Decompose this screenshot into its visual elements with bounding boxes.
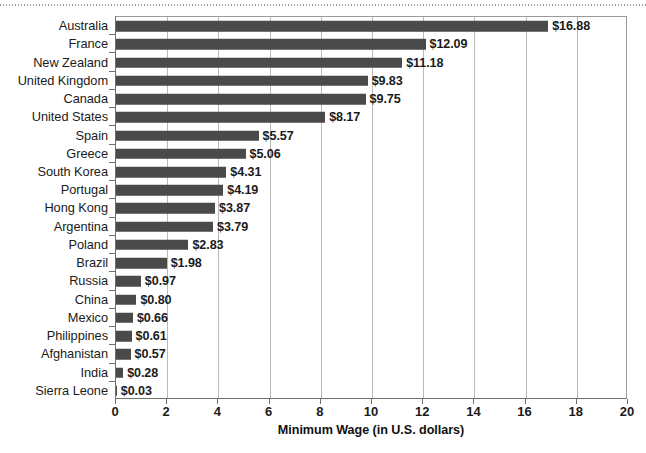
bar[interactable] <box>116 313 133 324</box>
bar[interactable] <box>116 149 246 160</box>
category-label: Spain <box>76 127 108 142</box>
category-label: Portugal <box>61 182 108 197</box>
x-axis-tick-label: 10 <box>364 404 378 419</box>
bar-value-label: $5.06 <box>250 147 281 161</box>
x-axis-tick-label: 2 <box>163 404 170 419</box>
category-axis-row: Spain <box>0 125 108 143</box>
x-axis-tick-label: 4 <box>214 404 221 419</box>
category-axis-row: Brazil <box>0 253 108 271</box>
category-tick <box>109 107 115 108</box>
bar-value-label: $0.97 <box>145 274 176 288</box>
bar[interactable] <box>116 203 215 214</box>
bar[interactable] <box>116 294 136 305</box>
bar-row[interactable]: $4.19 <box>116 181 626 199</box>
category-axis-row: Canada <box>0 89 108 107</box>
bar-value-label: $9.75 <box>370 92 401 106</box>
category-tick <box>109 180 115 181</box>
x-axis-tick-label: 20 <box>620 404 634 419</box>
category-label: Mexico <box>68 309 108 324</box>
category-tick <box>109 89 115 90</box>
bar-row[interactable]: $3.79 <box>116 218 626 236</box>
bar-row[interactable]: $11.18 <box>116 53 626 71</box>
x-axis-tick-label: 8 <box>316 404 323 419</box>
minimum-wage-bar-chart: AustraliaFranceNew ZealandUnited Kingdom… <box>0 0 646 453</box>
bar-row[interactable]: $4.31 <box>116 163 626 181</box>
bar-row[interactable]: $16.88 <box>116 17 626 35</box>
category-label: India <box>81 364 109 379</box>
bar-value-label: $0.28 <box>127 366 158 380</box>
category-label: Sierra Leone <box>35 382 108 397</box>
category-tick <box>109 198 115 199</box>
bar-value-label: $2.83 <box>192 238 223 252</box>
category-tick <box>109 162 115 163</box>
bar[interactable] <box>116 130 259 141</box>
bar-row[interactable]: $0.28 <box>116 364 626 382</box>
category-tick <box>109 290 115 291</box>
category-label: United Kingdom <box>18 72 108 87</box>
category-axis-row: Greece <box>0 144 108 162</box>
category-label: New Zealand <box>33 54 108 69</box>
bar-row[interactable]: $2.83 <box>116 236 626 254</box>
bar-row[interactable]: $0.97 <box>116 272 626 290</box>
bar-row[interactable]: $0.57 <box>116 345 626 363</box>
bar-value-label: $5.57 <box>263 129 294 143</box>
bar[interactable] <box>116 276 141 287</box>
bar[interactable] <box>116 94 366 105</box>
category-label: China <box>75 291 108 306</box>
bar-row[interactable]: $0.66 <box>116 309 626 327</box>
bar[interactable] <box>116 167 226 178</box>
category-tick <box>109 144 115 145</box>
category-label: Argentina <box>54 218 108 233</box>
category-label: Greece <box>66 145 108 160</box>
bar-row[interactable]: $12.09 <box>116 35 626 53</box>
bar-value-label: $0.80 <box>140 293 171 307</box>
bar[interactable] <box>116 240 188 251</box>
x-axis-tick-label: 18 <box>569 404 583 419</box>
category-tick <box>109 217 115 218</box>
category-label: Hong Kong <box>44 200 108 215</box>
category-tick <box>109 308 115 309</box>
bar[interactable] <box>116 39 426 50</box>
bar-row[interactable]: $5.06 <box>116 145 626 163</box>
category-tick <box>109 344 115 345</box>
x-axis-tick-label: 12 <box>415 404 429 419</box>
bar-row[interactable]: $5.57 <box>116 126 626 144</box>
category-label: Philippines <box>47 328 108 343</box>
bar[interactable] <box>116 221 213 232</box>
category-tick <box>109 71 115 72</box>
bar-row[interactable]: $0.61 <box>116 327 626 345</box>
bar-value-label: $9.83 <box>372 74 403 88</box>
category-tick <box>109 235 115 236</box>
bar[interactable] <box>116 112 325 123</box>
bar[interactable] <box>116 21 548 32</box>
bar[interactable] <box>116 185 223 196</box>
bar-value-label: $3.79 <box>217 220 248 234</box>
bar[interactable] <box>116 76 368 87</box>
bar[interactable] <box>116 331 132 342</box>
bar[interactable] <box>116 349 131 360</box>
category-axis-row: Argentina <box>0 217 108 235</box>
category-label: Australia <box>59 18 108 33</box>
bar-row[interactable]: $9.75 <box>116 90 626 108</box>
category-axis: AustraliaFranceNew ZealandUnited Kingdom… <box>0 16 108 399</box>
bar-value-label: $4.19 <box>227 183 258 197</box>
category-label: South Korea <box>37 164 108 179</box>
bar[interactable] <box>116 386 117 397</box>
category-axis-row: Australia <box>0 16 108 34</box>
bar-value-label: $0.57 <box>135 347 166 361</box>
bar[interactable] <box>116 258 167 269</box>
bar-row[interactable]: $9.83 <box>116 72 626 90</box>
x-axis-tick-label: 14 <box>466 404 480 419</box>
category-axis-row: Hong Kong <box>0 198 108 216</box>
bar-row[interactable]: $1.98 <box>116 254 626 272</box>
bar-row[interactable]: $8.17 <box>116 108 626 126</box>
category-label: Russia <box>69 273 108 288</box>
bar-row[interactable]: $0.03 <box>116 382 626 400</box>
bar-row[interactable]: $0.80 <box>116 291 626 309</box>
category-label: Afghanistan <box>41 346 108 361</box>
bar[interactable] <box>116 57 402 68</box>
bar-row[interactable]: $3.87 <box>116 199 626 217</box>
bar[interactable] <box>116 367 123 378</box>
category-axis-row: Poland <box>0 235 108 253</box>
category-tick <box>109 363 115 364</box>
